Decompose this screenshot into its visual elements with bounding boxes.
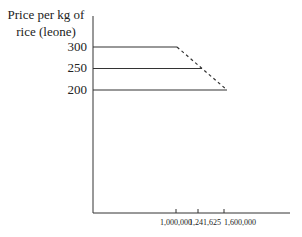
x-tick-1241625: 1,241,625 [189, 218, 221, 228]
chart-plot [0, 0, 302, 237]
x-tick-1000000: 1,000,000 [160, 218, 192, 228]
x-tick-1600000: 1,600,000 [224, 218, 256, 228]
